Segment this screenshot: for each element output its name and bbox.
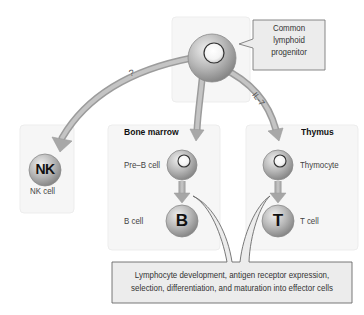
progenitor-cell bbox=[188, 34, 236, 82]
thymocyte-label: Thymocyte bbox=[300, 160, 339, 170]
t-cell-label: T cell bbox=[300, 216, 319, 226]
pre-b-cell bbox=[167, 150, 197, 180]
pre-b-cell-label: Pre–B cell bbox=[124, 160, 160, 170]
nk-cell-label: NK cell bbox=[30, 186, 55, 196]
thymus-box bbox=[246, 125, 358, 250]
nk-cell-letter: NK bbox=[29, 161, 61, 177]
b-cell-label: B cell bbox=[124, 216, 143, 226]
bone-marrow-title: Bone marrow bbox=[124, 126, 179, 137]
bone-marrow-box bbox=[108, 125, 220, 250]
summary-text: Lymphocyte development, antigen receptor… bbox=[126, 269, 337, 295]
b-cell-letter: B bbox=[170, 211, 194, 231]
thymocyte-cell bbox=[263, 150, 293, 180]
progenitor-label: Common lymphoid progenitor bbox=[257, 22, 320, 58]
t-cell-letter: T bbox=[266, 211, 290, 231]
thymus-title: Thymus bbox=[301, 126, 334, 137]
